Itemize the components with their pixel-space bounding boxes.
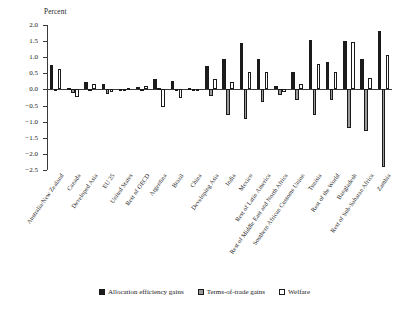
x-axis-label: Canada <box>65 172 82 192</box>
bar <box>265 72 269 89</box>
bar <box>213 79 217 89</box>
bar <box>240 43 244 90</box>
bar <box>144 86 148 89</box>
bar <box>351 42 355 89</box>
y-tick-label: −1.5 <box>25 134 38 142</box>
bar-group <box>168 25 185 170</box>
bar <box>161 89 165 107</box>
bar <box>299 84 303 90</box>
y-tick-label: 0.5 <box>29 69 38 77</box>
bar <box>248 72 252 90</box>
bar-group <box>82 25 99 170</box>
chart-figure: Percent 2.01.51.00.50.0−0.5−1.0−1.5−2.0−… <box>0 0 409 314</box>
bar <box>386 55 390 89</box>
x-axis-label: EU 25 <box>101 172 116 190</box>
x-axis-label: India <box>224 172 237 187</box>
y-tick-label: 1.5 <box>29 37 38 45</box>
bar-group <box>151 25 168 170</box>
bar <box>102 84 106 89</box>
y-tick-label: −1.0 <box>25 118 38 126</box>
bar-group <box>64 25 81 170</box>
bar-group <box>237 25 254 170</box>
bar-group <box>306 25 323 170</box>
bar <box>364 89 368 131</box>
bar <box>188 88 192 90</box>
bar-group <box>289 25 306 170</box>
bar <box>123 89 127 91</box>
legend-item-allocation-efficiency-gains: Allocation efficiency gains <box>99 288 184 296</box>
bar-series-container <box>47 25 392 170</box>
legend-label: Welfare <box>288 288 310 296</box>
bar <box>153 79 157 90</box>
bar <box>75 89 79 97</box>
bar <box>230 82 234 89</box>
bar-group <box>323 25 340 170</box>
bar-group <box>358 25 375 170</box>
legend-swatch-icon <box>99 289 105 295</box>
bar <box>330 89 334 99</box>
bar <box>326 62 330 89</box>
bar <box>222 59 226 90</box>
bar <box>382 89 386 166</box>
y-tick-label: −2.5 <box>25 166 38 174</box>
bar-group <box>99 25 116 170</box>
bar-group <box>133 25 150 170</box>
bar <box>179 89 183 98</box>
chart-legend: Allocation efficiency gains Terms-of-tra… <box>0 288 409 296</box>
bar <box>257 59 261 90</box>
bar <box>274 86 278 89</box>
x-axis-label: Mexico <box>237 172 254 192</box>
y-tick-label: 2.0 <box>29 21 38 29</box>
bar-group <box>47 25 64 170</box>
bar-group <box>254 25 271 170</box>
bar <box>313 89 317 114</box>
x-axis-label: Brazil <box>170 172 185 189</box>
bar-group <box>375 25 392 170</box>
bar-group <box>116 25 133 170</box>
bar <box>54 89 58 91</box>
bar-group <box>220 25 237 170</box>
legend-label: Terms-of-trade gains <box>207 288 265 296</box>
x-axis-label: Tunisia <box>306 172 323 192</box>
bar-group <box>340 25 357 170</box>
x-axis-label: Zambia <box>375 172 392 192</box>
bar <box>127 88 131 90</box>
bar <box>205 66 209 89</box>
bar <box>317 64 321 89</box>
bar-group <box>271 25 288 170</box>
y-axis-title: Percent <box>44 8 67 16</box>
bar <box>209 89 213 95</box>
bar <box>226 89 230 114</box>
y-tick-label: −0.5 <box>25 102 38 110</box>
bar <box>136 87 140 90</box>
bar <box>343 41 347 89</box>
y-tick-label: 1.0 <box>29 53 38 61</box>
bar <box>368 78 372 89</box>
bar <box>196 89 200 91</box>
bar <box>291 72 295 89</box>
bar-group <box>202 25 219 170</box>
bar <box>261 89 265 102</box>
bar <box>58 69 62 89</box>
bar <box>295 89 299 100</box>
x-axis-label: Australia/New Zealand <box>24 172 64 225</box>
bar <box>282 89 286 92</box>
bar <box>110 89 114 92</box>
bar <box>171 81 175 89</box>
bar <box>119 89 123 91</box>
y-tick-label: 0.0 <box>29 85 38 93</box>
x-axis-label: China <box>188 172 202 189</box>
legend-label: Allocation efficiency gains <box>108 288 184 296</box>
legend-item-welfare: Welfare <box>279 288 310 296</box>
y-tick: −2.5 <box>43 170 47 171</box>
bar <box>347 89 351 128</box>
legend-item-terms-of-trade-gains: Terms-of-trade gains <box>198 288 265 296</box>
y-tick-label: −2.0 <box>25 150 38 158</box>
legend-swatch-icon <box>198 289 204 295</box>
bar <box>360 59 364 90</box>
bar <box>244 89 248 119</box>
bar <box>50 65 54 89</box>
bar <box>378 31 382 89</box>
bar <box>309 40 313 89</box>
bar <box>92 84 96 89</box>
